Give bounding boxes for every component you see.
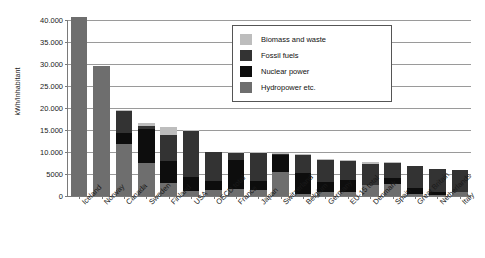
legend-swatch-icon: [240, 66, 252, 77]
legend-item[interactable]: Biomass and waste: [240, 31, 384, 47]
bar-segment: [317, 160, 334, 182]
bar-segment: [138, 129, 155, 163]
bar-segment: [295, 155, 312, 173]
bar-segment: [116, 111, 133, 133]
y-axis-tick-label: 20.000: [40, 104, 63, 113]
y-axis-tick-label: 40.000: [40, 16, 63, 25]
bar-segment: [205, 181, 222, 190]
y-axis-tick-label: 30.000: [40, 60, 63, 69]
bar-segment: [272, 155, 289, 172]
bar-segment: [116, 133, 133, 144]
bar-stack[interactable]: [71, 17, 88, 196]
bar-segment: [93, 66, 110, 196]
bar-segment: [250, 153, 267, 182]
bar-segment: [160, 161, 177, 183]
legend-item[interactable]: Hydropower etc.: [240, 79, 384, 95]
bar-stack[interactable]: [93, 66, 110, 196]
legend-item-label: Hydropower etc.: [261, 83, 316, 92]
bar-segment: [407, 166, 424, 188]
legend-item-label: Biomass and waste: [261, 35, 326, 44]
bar-segment: [160, 127, 177, 134]
bar-segment: [71, 17, 88, 196]
y-axis-tick-label: 0: [59, 192, 63, 201]
legend-swatch-icon: [240, 82, 252, 93]
chart-container: kWh/Inhabitant 0500010.00015.00020.00025…: [0, 0, 485, 258]
legend-item[interactable]: Fossil fuels: [240, 47, 384, 63]
bar-segment: [160, 135, 177, 161]
legend-item-label: Nuclear power: [261, 67, 309, 76]
bar-segment: [205, 152, 222, 181]
bar-segment: [228, 153, 245, 160]
y-axis-tick-label: 10.000: [40, 148, 63, 157]
y-axis-tick-label: 35.000: [40, 38, 63, 47]
bar-segment: [384, 163, 401, 178]
y-axis-title: kWh/Inhabitant: [14, 37, 21, 147]
y-axis-tick-label: 15.000: [40, 126, 63, 135]
bar-segment: [183, 131, 200, 177]
y-axis-tick-mark: [65, 196, 68, 197]
legend-item[interactable]: Nuclear power: [240, 63, 384, 79]
legend-swatch-icon: [240, 50, 252, 61]
y-axis-tick-label: 25.000: [40, 82, 63, 91]
legend-item-label: Fossil fuels: [261, 51, 299, 60]
bar-stack[interactable]: [205, 152, 222, 196]
chart-legend: Biomass and wasteFossil fuelsNuclear pow…: [232, 25, 392, 102]
legend-swatch-icon: [240, 34, 252, 45]
y-axis-tick-label: 5000: [46, 170, 63, 179]
